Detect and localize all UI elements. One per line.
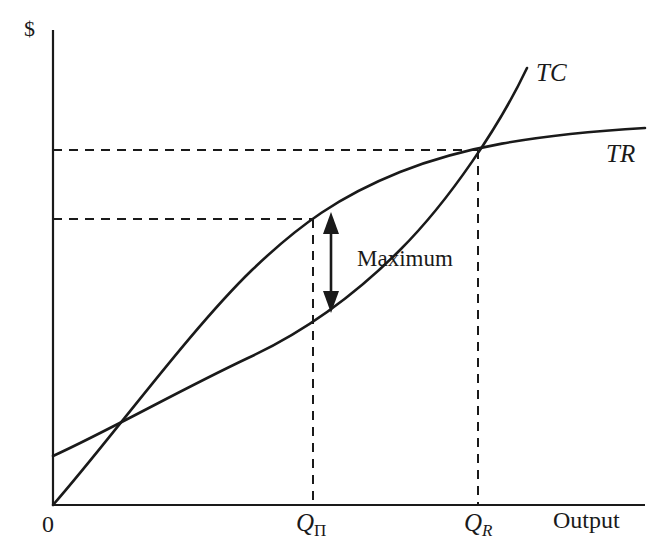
y-axis-label: $ <box>24 18 35 40</box>
x-tick-q-r-base: Q <box>464 509 482 536</box>
x-axis-label: Output <box>553 508 620 532</box>
total-revenue-label: TR <box>606 141 635 166</box>
origin-label: 0 <box>42 512 54 536</box>
break-even-chart: $ TC TR Maximum 0 Output QΠ QR <box>0 0 658 560</box>
x-tick-label-q-pi: QΠ <box>296 510 326 539</box>
x-tick-q-pi-base: Q <box>296 509 314 536</box>
maximum-annotation-label: Maximum <box>357 247 453 270</box>
maximum-gap-arrow <box>323 212 339 313</box>
total-cost-curve <box>53 68 527 456</box>
x-tick-label-q-r: QR <box>464 510 492 539</box>
x-tick-q-r-subscript: R <box>482 521 492 540</box>
total-revenue-curve <box>53 128 645 505</box>
total-cost-label: TC <box>536 60 567 85</box>
x-tick-q-pi-subscript: Π <box>314 521 326 540</box>
